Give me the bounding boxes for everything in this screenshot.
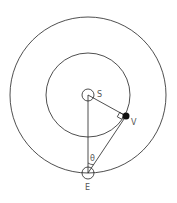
angle-label: θ xyxy=(90,154,95,163)
earth-venus-line xyxy=(88,116,126,173)
angle-arc xyxy=(88,163,94,165)
sun-label: S xyxy=(97,90,102,99)
orbit-diagram: S V E θ xyxy=(0,0,177,203)
earth-label: E xyxy=(85,183,90,192)
venus xyxy=(123,113,130,120)
venus-label: V xyxy=(131,118,137,127)
